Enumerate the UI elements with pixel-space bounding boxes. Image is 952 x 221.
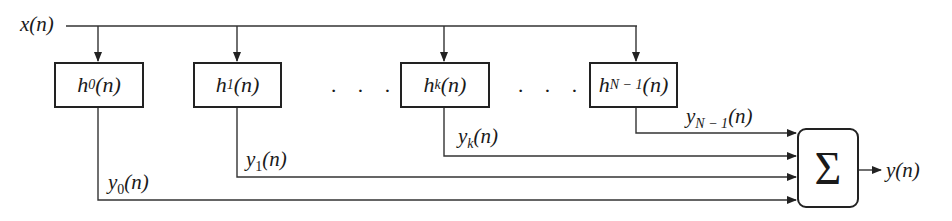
filter-hk: hk(n) [400, 62, 490, 108]
output-label-yk: yk(n) [458, 126, 498, 151]
output-label: y(n) [886, 160, 920, 181]
filter-h1: h1(n) [193, 62, 282, 108]
output-label-y0: y0(n) [108, 172, 149, 197]
ellipsis-2: · · · [517, 78, 585, 104]
output-label-yN-1: yN − 1(n) [686, 106, 753, 131]
ellipsis-1: · · · [330, 78, 398, 104]
filter-hN-1: hN − 1(n) [589, 62, 678, 108]
filter-h0: h0(n) [54, 62, 144, 108]
summation-block: Σ [797, 128, 859, 208]
input-label: x(n) [20, 14, 54, 35]
output-label-y1: y1(n) [246, 149, 287, 174]
